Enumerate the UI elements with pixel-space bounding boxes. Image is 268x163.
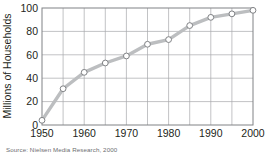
y-tick-label: 20	[26, 95, 38, 107]
y-tick-label: 40	[26, 72, 38, 84]
data-point-marker	[124, 53, 130, 59]
y-axis-title: Millions of Households	[1, 13, 13, 118]
y-tick-label: 100	[20, 2, 38, 14]
x-tick-label: 1970	[115, 127, 139, 139]
data-point-marker	[60, 86, 66, 92]
data-point-marker	[102, 60, 108, 66]
data-point-marker	[229, 11, 235, 17]
x-tick-label: 1990	[199, 127, 223, 139]
x-tick-label: 1950	[30, 127, 54, 139]
data-point-marker	[145, 41, 151, 47]
data-point-marker	[208, 14, 214, 20]
data-point-marker	[187, 23, 193, 29]
chart-figure: 020406080100 195019601970198019902000 Mi…	[0, 0, 268, 163]
data-point-marker	[39, 117, 45, 123]
x-tick-label: 2000	[241, 127, 265, 139]
x-tick-label: 1960	[73, 127, 97, 139]
y-tick-label: 60	[26, 49, 38, 61]
y-axis-tick-labels: 020406080100	[20, 2, 38, 131]
source-note: Source: Nielsen Media Research, 2000	[6, 146, 117, 153]
data-point-marker	[81, 69, 87, 75]
data-point-marker	[166, 37, 172, 43]
x-tick-label: 1980	[157, 127, 181, 139]
y-tick-label: 80	[26, 25, 38, 37]
data-point-marker	[250, 7, 256, 13]
line-chart: 020406080100 195019601970198019902000 Mi…	[0, 0, 268, 163]
x-axis-tick-labels: 195019601970198019902000	[30, 127, 265, 139]
